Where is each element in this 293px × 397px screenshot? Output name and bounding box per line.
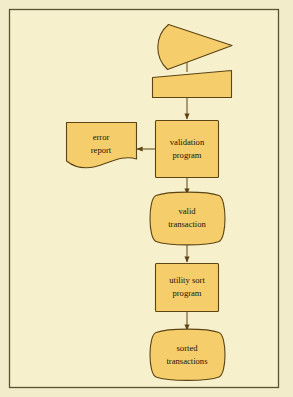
- node-valid-transaction: valid transaction: [150, 192, 225, 245]
- validation-program-label-line1: validation: [170, 137, 205, 147]
- utility-sort-program-label-line2: program: [172, 288, 201, 298]
- validation-program-label-line2: program: [172, 150, 201, 160]
- flowchart-canvas: validation program error report valid tr…: [0, 0, 293, 397]
- node-utility-sort-program: utility sort program: [156, 264, 219, 312]
- valid-transaction-label-line1: valid: [178, 206, 196, 216]
- error-report-label-line2: report: [91, 145, 112, 155]
- node-sorted-transactions: sorted transactions: [150, 329, 225, 380]
- valid-transaction-label-line2: transaction: [168, 219, 206, 229]
- node-validation-program: validation program: [156, 121, 219, 178]
- utility-sort-program-label-line1: utility sort: [169, 275, 205, 285]
- sorted-transactions-label-line1: sorted: [176, 343, 198, 353]
- sorted-transactions-shape: [150, 329, 225, 380]
- figure-root: validation program error report valid tr…: [0, 0, 293, 397]
- error-report-label-line1: error: [93, 132, 110, 142]
- sorted-transactions-label-line2: transactions: [166, 356, 208, 366]
- diagram-frame: [10, 10, 279, 388]
